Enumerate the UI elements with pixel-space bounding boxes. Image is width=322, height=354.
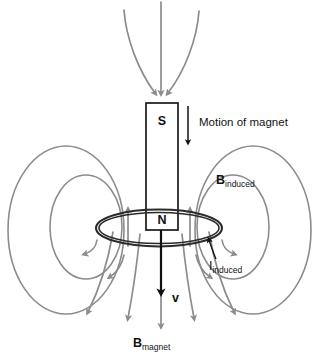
motion-of-magnet-label: Motion of magnet (199, 116, 289, 128)
induction-diagram: S N Motion of magnet Binduced Iinduced (0, 0, 322, 354)
b-magnet-subscript: magnet (142, 342, 171, 352)
b-magnet-symbol: B (133, 336, 142, 350)
magnet-north-pole-label: N (157, 213, 166, 227)
diagram-canvas: S N Motion of magnet Binduced Iinduced (0, 0, 322, 354)
b-induced-subscript: induced (225, 179, 255, 189)
magnet-south-pole-label: S (158, 114, 166, 128)
i-induced-subscript: induced (212, 265, 242, 275)
velocity-label: v (172, 291, 179, 305)
b-induced-symbol: B (216, 173, 225, 187)
